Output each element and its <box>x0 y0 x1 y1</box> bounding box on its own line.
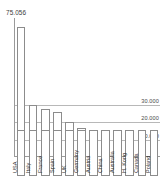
category-axis-labels: USAItalyFranceSpainUKGermanyAustriaChina… <box>15 130 160 176</box>
category-label: UK <box>61 165 67 173</box>
bar-chart: 30.00020.00010.000 75.056 USAItalyFrance… <box>0 0 160 176</box>
category-label: Spain <box>49 159 55 173</box>
category-label: Germany <box>73 150 79 173</box>
category-label: China <box>97 158 103 173</box>
category-label: H. Kong <box>121 153 127 173</box>
category-tick-poland: Poland <box>150 130 159 176</box>
category-label: Australia <box>109 151 115 173</box>
category-label: France <box>37 156 43 173</box>
category-label: Poland <box>145 156 151 173</box>
category-label: Italy <box>25 163 31 173</box>
category-label: Canada <box>133 153 139 173</box>
category-label: Austria <box>85 156 91 173</box>
category-label: USA <box>12 162 18 173</box>
peak-value-label: 75.056 <box>6 9 26 16</box>
